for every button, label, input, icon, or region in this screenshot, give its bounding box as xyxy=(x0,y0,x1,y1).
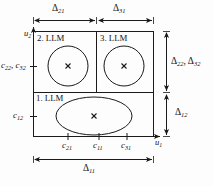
tick-label-c21: c21 xyxy=(62,141,72,150)
c22-subscript: 22 xyxy=(5,65,11,71)
delta12-subscript: 12 xyxy=(181,111,187,118)
region-label-llm2: 2. LLM xyxy=(37,34,64,43)
diagram-canvas xyxy=(0,0,213,186)
bottom-dimension-arrows xyxy=(34,156,154,163)
dimension-label-delta21: Δ21 xyxy=(52,4,65,14)
u2-subscript: 2 xyxy=(28,33,31,39)
delta32-symbol: Δ xyxy=(188,56,194,66)
llm-partition-diagram: Δ21 Δ31 Δ22, Δ32 Δ12 Δ11 u2 u1 c22, c32 … xyxy=(0,0,213,186)
delta31-subscript: 31 xyxy=(119,7,125,14)
c11-subscript: 11 xyxy=(97,145,103,151)
c21-subscript: 21 xyxy=(66,145,72,151)
center-marker-llm3 xyxy=(122,64,127,69)
c31-subscript: 31 xyxy=(125,145,131,151)
input-space-rectangle xyxy=(34,32,154,137)
tick-label-c11: c11 xyxy=(93,141,103,150)
tick-label-c31: c31 xyxy=(121,141,131,150)
dimension-label-delta22-delta32: Δ22, Δ32 xyxy=(171,57,200,67)
c32-subscript: 32 xyxy=(20,65,26,71)
delta21-subscript: 21 xyxy=(58,7,64,14)
c32-symbol: c xyxy=(16,60,20,70)
dimension-label-delta11: Δ11 xyxy=(83,164,95,174)
center-marker-llm2 xyxy=(66,64,71,69)
partition-box-group xyxy=(34,32,154,137)
u1-subscript: 1 xyxy=(159,142,162,148)
top-dimension-arrows xyxy=(34,17,154,24)
tick-label-c12: c12 xyxy=(13,111,23,120)
region-label-llm1: 1. LLM xyxy=(36,94,63,103)
right-dimension-arrows xyxy=(163,32,170,137)
tick-label-c22-c32: c22, c32 xyxy=(1,61,26,70)
dimension-label-delta12: Δ12 xyxy=(175,108,188,118)
delta11-subscript: 11 xyxy=(89,167,95,174)
axis-label-u2: u2 xyxy=(24,29,31,38)
region-label-llm3: 3. LLM xyxy=(100,34,127,43)
delta22-subscript: 22 xyxy=(177,60,183,67)
delta32-subscript: 32 xyxy=(194,60,200,67)
c12-subscript: 12 xyxy=(17,115,23,121)
axis-label-u1: u1 xyxy=(155,138,162,147)
center-marker-llm1 xyxy=(92,114,97,119)
axes-group xyxy=(30,27,160,140)
dimension-label-delta31: Δ31 xyxy=(113,4,126,14)
